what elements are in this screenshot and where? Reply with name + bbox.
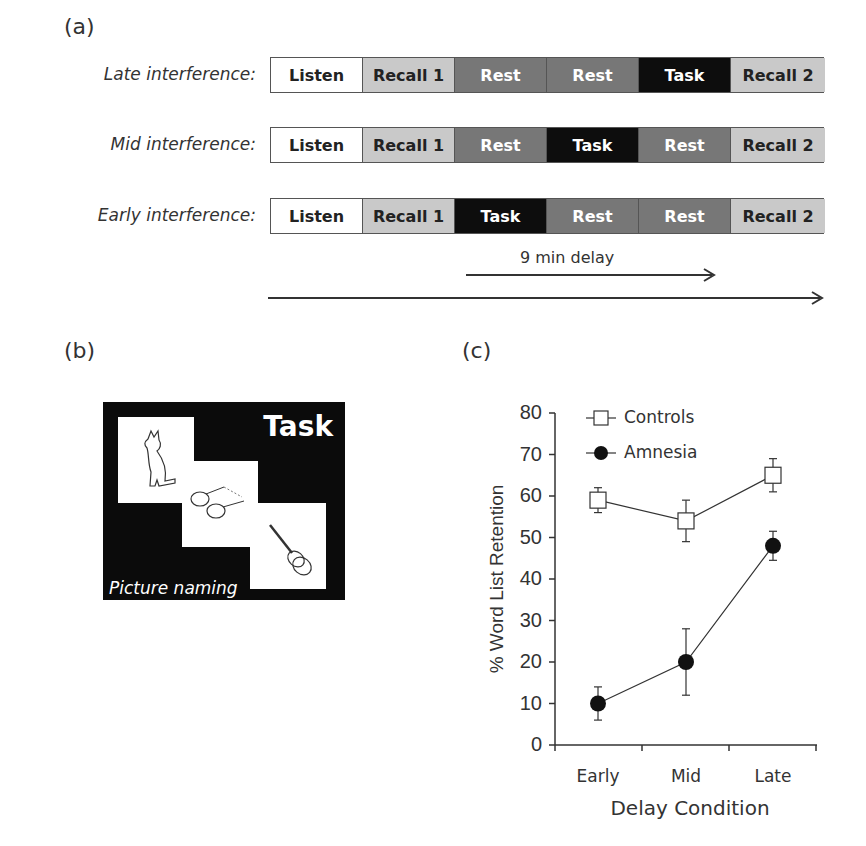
retention-chart xyxy=(0,0,866,846)
amnesia-marker xyxy=(765,538,781,554)
amnesia-marker xyxy=(678,654,694,670)
y-tick-label: 60 xyxy=(502,484,542,507)
y-tick-label: 70 xyxy=(502,443,542,466)
controls-marker xyxy=(765,467,781,483)
x-tick-label: Early xyxy=(558,766,638,786)
legend-square-icon xyxy=(594,411,608,425)
y-tick-label: 10 xyxy=(502,692,542,715)
controls-marker xyxy=(678,513,694,529)
x-tick-label: Late xyxy=(733,766,813,786)
x-axis-label: Delay Condition xyxy=(575,796,805,820)
legend-label: Amnesia xyxy=(624,442,697,462)
y-tick-label: 0 xyxy=(502,733,542,756)
x-tick-label: Mid xyxy=(646,766,726,786)
y-tick-label: 80 xyxy=(502,401,542,424)
amnesia-marker xyxy=(590,696,606,712)
y-tick-label: 30 xyxy=(502,609,542,632)
y-tick-label: 40 xyxy=(502,567,542,590)
y-tick-label: 20 xyxy=(502,650,542,673)
legend-circle-icon xyxy=(594,446,608,460)
y-tick-label: 50 xyxy=(502,526,542,549)
legend-label: Controls xyxy=(624,407,694,427)
controls-marker xyxy=(590,492,606,508)
